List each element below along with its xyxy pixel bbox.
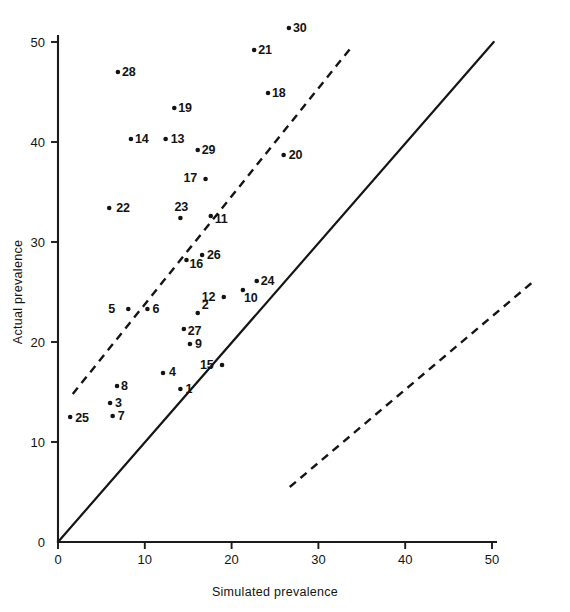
point-label-11: 11 [215,212,228,226]
data-point-25: 25 [68,411,89,425]
data-point-24: 24 [254,274,274,288]
point-marker-30 [287,26,292,31]
point-label-9: 9 [195,337,202,351]
point-marker-25 [68,415,73,420]
point-marker-12 [221,295,226,300]
data-point-17: 17 [184,171,208,185]
point-marker-18 [266,91,271,96]
y-axis-title: Actual prevalence [11,240,25,344]
y-tick-label-20: 20 [31,335,45,350]
identity-line [58,42,494,542]
data-point-23: 23 [174,200,188,220]
point-marker-16 [184,258,189,263]
point-label-22: 22 [116,201,130,215]
point-label-30: 30 [293,21,307,35]
data-point-15: 15 [200,358,224,372]
y-tick-label-50: 50 [31,35,45,50]
point-label-8: 8 [121,379,128,393]
point-marker-23 [178,216,183,221]
point-label-25: 25 [75,411,89,425]
point-marker-6 [145,307,150,312]
point-marker-1 [178,387,183,392]
data-point-29: 29 [195,143,215,157]
point-label-7: 7 [118,409,125,423]
data-point-20: 20 [281,148,302,162]
reference-lines-group [58,42,533,542]
lower-dashed-line [290,282,533,487]
point-label-24: 24 [261,274,275,288]
point-label-18: 18 [272,86,286,100]
point-marker-27 [182,327,187,332]
point-label-5: 5 [108,302,115,316]
data-point-8: 8 [115,379,128,393]
point-label-10: 10 [244,291,258,305]
x-tick-label-0: 0 [54,552,61,567]
y-tick-label-0: 0 [38,535,45,550]
upper-dashed-line [73,45,353,394]
point-marker-28 [116,70,121,75]
point-marker-21 [252,48,257,53]
point-marker-7 [110,414,115,419]
point-marker-2 [195,311,200,316]
point-marker-14 [129,137,134,142]
point-label-16: 16 [189,257,203,271]
point-label-28: 28 [122,65,136,79]
point-marker-8 [115,384,120,389]
data-point-7: 7 [110,409,124,423]
point-marker-19 [172,106,177,111]
data-point-6: 6 [145,302,159,316]
data-point-1: 1 [178,382,192,396]
point-label-12: 12 [202,290,216,304]
data-point-28: 28 [116,65,136,79]
point-marker-4 [161,371,166,376]
y-tick-label-40: 40 [31,135,45,150]
figure-container: 0102030405001020304050 12345678910111213… [0,0,570,612]
x-tick-label-30: 30 [311,552,325,567]
data-point-22: 22 [107,201,130,215]
data-point-18: 18 [266,86,286,100]
point-marker-26 [200,253,205,258]
point-label-21: 21 [258,43,272,57]
point-label-17: 17 [184,171,198,185]
point-marker-9 [188,342,193,347]
point-label-26: 26 [207,248,221,262]
data-point-11: 11 [208,212,227,226]
data-point-19: 19 [172,101,192,115]
point-label-19: 19 [178,101,192,115]
data-point-13: 13 [163,132,184,146]
y-tick-label-10: 10 [31,435,45,450]
point-marker-17 [203,177,208,182]
data-point-16: 16 [184,257,203,271]
x-tick-label-10: 10 [138,552,152,567]
point-label-13: 13 [171,132,185,146]
point-marker-15 [220,363,225,368]
point-label-20: 20 [289,148,303,162]
point-label-23: 23 [174,200,188,214]
point-marker-29 [195,148,200,153]
point-marker-20 [281,153,286,158]
point-label-29: 29 [202,143,216,157]
data-points-group: 1234567891011121314151617181920212223242… [68,21,307,425]
y-tick-label-30: 30 [31,235,45,250]
data-point-5: 5 [108,302,130,316]
data-point-14: 14 [129,132,149,146]
data-point-3: 3 [108,396,122,410]
data-point-10: 10 [241,288,258,305]
x-tick-label-40: 40 [398,552,412,567]
point-label-14: 14 [135,132,149,146]
axis-labels-group: Simulated prevalenceActual prevalence [11,240,338,599]
data-point-12: 12 [202,290,226,304]
point-label-15: 15 [200,358,214,372]
data-point-27: 27 [182,324,202,338]
point-marker-3 [108,401,113,406]
point-marker-11 [208,214,213,219]
point-marker-22 [107,206,112,211]
point-label-1: 1 [185,382,192,396]
data-point-30: 30 [287,21,307,35]
data-point-4: 4 [161,365,176,379]
x-tick-label-20: 20 [224,552,238,567]
point-label-6: 6 [152,302,159,316]
point-label-27: 27 [188,324,202,338]
x-tick-label-50: 50 [485,552,499,567]
data-point-21: 21 [252,43,272,57]
